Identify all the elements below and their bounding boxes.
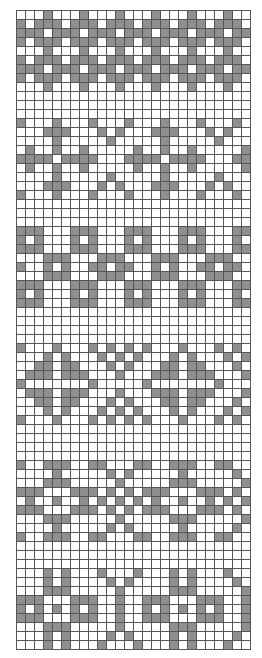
chart-cell-contrast (116, 497, 125, 506)
chart-cell-background (17, 569, 26, 578)
chart-cell-background (233, 326, 242, 335)
chart-cell-background (44, 101, 53, 110)
chart-cell-background (170, 101, 179, 110)
chart-cell-background (161, 200, 170, 209)
chart-cell-background (17, 101, 26, 110)
chart-cell-background (125, 101, 134, 110)
chart-cell-background (152, 326, 161, 335)
chart-cell-background (170, 56, 179, 65)
chart-cell-background (80, 191, 89, 200)
chart-cell-background (71, 623, 80, 632)
chart-cell-contrast (152, 56, 161, 65)
chart-cell-background (143, 524, 152, 533)
chart-cell-background (35, 515, 44, 524)
chart-cell-contrast (35, 65, 44, 74)
chart-cell-contrast (134, 497, 143, 506)
chart-cell-contrast (215, 272, 224, 281)
chart-cell-background (89, 11, 98, 20)
chart-cell-background (188, 254, 197, 263)
chart-cell-contrast (134, 569, 143, 578)
chart-cell-background (125, 173, 134, 182)
chart-cell-background (62, 344, 71, 353)
chart-cell-background (35, 254, 44, 263)
chart-cell-background (98, 605, 107, 614)
chart-cell-background (161, 479, 170, 488)
chart-cell-background (125, 497, 134, 506)
chart-cell-background (26, 542, 35, 551)
chart-cell-background (143, 200, 152, 209)
chart-cell-background (161, 326, 170, 335)
chart-cell-contrast (170, 407, 179, 416)
chart-cell-background (98, 623, 107, 632)
chart-cell-background (62, 200, 71, 209)
chart-cell-contrast (197, 614, 206, 623)
chart-cell-background (116, 524, 125, 533)
chart-cell-background (134, 632, 143, 641)
chart-cell-background (125, 317, 134, 326)
chart-cell-background (170, 119, 179, 128)
chart-cell-contrast (80, 38, 89, 47)
chart-cell-background (62, 497, 71, 506)
chart-cell-contrast (170, 389, 179, 398)
chart-cell-contrast (170, 632, 179, 641)
chart-cell-contrast (170, 362, 179, 371)
chart-cell-background (242, 56, 251, 65)
chart-cell-background (35, 542, 44, 551)
chart-cell-background (152, 191, 161, 200)
chart-cell-background (197, 452, 206, 461)
chart-cell-background (143, 308, 152, 317)
chart-cell-background (188, 173, 197, 182)
chart-cell-background (35, 164, 44, 173)
chart-cell-background (44, 452, 53, 461)
chart-cell-contrast (125, 119, 134, 128)
chart-cell-contrast (161, 146, 170, 155)
chart-cell-background (107, 146, 116, 155)
chart-cell-contrast (89, 416, 98, 425)
chart-cell-background (71, 407, 80, 416)
chart-cell-contrast (107, 362, 116, 371)
chart-cell-contrast (233, 191, 242, 200)
chart-cell-background (233, 200, 242, 209)
chart-cell-contrast (125, 524, 134, 533)
chart-cell-contrast (35, 614, 44, 623)
chart-cell-background (152, 101, 161, 110)
chart-cell-background (152, 173, 161, 182)
chart-cell-contrast (206, 182, 215, 191)
chart-cell-contrast (35, 389, 44, 398)
chart-cell-background (152, 308, 161, 317)
chart-cell-contrast (170, 254, 179, 263)
chart-cell-background (215, 218, 224, 227)
chart-cell-background (62, 335, 71, 344)
chart-cell-background (134, 101, 143, 110)
chart-cell-background (125, 254, 134, 263)
chart-cell-background (152, 110, 161, 119)
chart-cell-contrast (179, 245, 188, 254)
chart-cell-contrast (125, 299, 134, 308)
chart-cell-background (170, 299, 179, 308)
chart-cell-contrast (224, 182, 233, 191)
chart-cell-background (161, 524, 170, 533)
chart-cell-contrast (152, 488, 161, 497)
chart-cell-background (89, 317, 98, 326)
chart-cell-background (26, 218, 35, 227)
chart-cell-background (44, 110, 53, 119)
chart-cell-background (224, 245, 233, 254)
chart-cell-background (233, 47, 242, 56)
chart-cell-contrast (62, 254, 71, 263)
chart-cell-background (170, 488, 179, 497)
chart-cell-background (170, 416, 179, 425)
chart-cell-background (26, 425, 35, 434)
chart-cell-contrast (35, 74, 44, 83)
chart-cell-background (125, 209, 134, 218)
chart-cell-contrast (44, 155, 53, 164)
chart-cell-background (89, 335, 98, 344)
chart-cell-contrast (161, 191, 170, 200)
chart-cell-background (242, 11, 251, 20)
chart-cell-background (35, 173, 44, 182)
chart-cell-contrast (116, 614, 125, 623)
chart-cell-background (125, 614, 134, 623)
chart-cell-background (26, 38, 35, 47)
chart-cell-contrast (170, 272, 179, 281)
chart-cell-background (116, 173, 125, 182)
chart-cell-background (161, 578, 170, 587)
